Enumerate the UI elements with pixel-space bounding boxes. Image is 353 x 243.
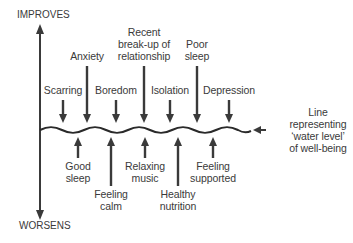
down-arrow-icon [193, 114, 201, 123]
well-being-diagram: IMPROVES WORSENS ScarringAnxietyBoredomR… [0, 0, 353, 243]
down-arrow-icon [112, 114, 120, 123]
axis-down-arrow-icon [36, 210, 44, 220]
up-arrow-icon [174, 137, 182, 146]
up-arrow-icon [141, 137, 149, 146]
worsens-label: WORSENS [19, 220, 71, 231]
down-arrow-icon [166, 114, 174, 123]
positive-factor-label: Relaxingmusic [125, 160, 165, 184]
vertical-axis [36, 24, 44, 220]
axis-up-arrow-icon [36, 24, 44, 34]
down-arrow-icon [59, 114, 67, 123]
water-level-line [40, 127, 251, 133]
negative-factor-label: Poorsleep [185, 38, 210, 62]
down-arrow-icon [140, 114, 148, 123]
negative-factor-label: Anxiety [70, 50, 104, 62]
negative-factor-label: Isolation [151, 84, 189, 96]
up-arrow-icon [209, 137, 217, 146]
positive-factor-label: Feelingsupported [190, 160, 236, 184]
down-arrow-icon [225, 114, 233, 123]
negative-factor-label: Recentbreak-up ofrelationship [118, 26, 171, 62]
label-pointer-arrow [253, 126, 266, 134]
positive-factor-label: Feelingcalm [94, 188, 128, 212]
improves-label: IMPROVES [17, 9, 70, 20]
positive-factor-label: Healthynutrition [160, 188, 196, 212]
negative-factor-label: Depression [203, 84, 255, 96]
positive-factor-label: Goodsleep [65, 160, 90, 184]
water-level-label: Linerepresenting‘water level’of well-bei… [289, 106, 347, 154]
up-arrow-icon [74, 137, 82, 146]
down-arrow-icon [83, 114, 91, 123]
negative-factor-label: Scarring [44, 84, 82, 96]
up-arrow-icon [107, 137, 115, 146]
negative-factor-label: Boredom [95, 84, 137, 96]
